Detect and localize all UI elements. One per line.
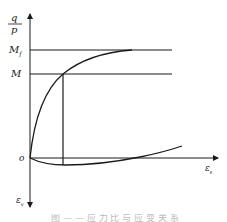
neg-y-axis-label-sub: v [21, 201, 24, 207]
stress-ratio-curve [30, 50, 132, 158]
x-axis-label-sub: s [210, 169, 213, 175]
mf-label-sub: f [19, 50, 21, 57]
stress-ratio-strain-diagram [0, 0, 227, 222]
mf-label-base: M [9, 44, 19, 55]
m-label: M [11, 69, 21, 79]
mf-label: Mf [9, 45, 21, 57]
figure-caption: 图 — — 应 力 比 与 应 变 关 系 [40, 214, 190, 222]
y-axis-label-denominator: p [11, 25, 17, 35]
volumetric-strain-curve [30, 146, 182, 165]
origin-label: o [19, 154, 24, 163]
neg-y-axis-label: εv [16, 196, 24, 207]
y-axis-label-numerator: q [11, 13, 17, 23]
x-axis-label: εs [205, 164, 212, 175]
